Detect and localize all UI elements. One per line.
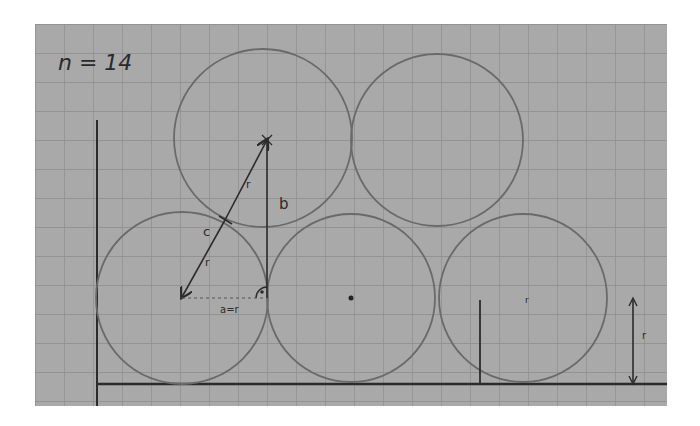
label-r-lower: r: [205, 256, 210, 269]
n-equals-label: n = 14: [58, 50, 132, 75]
graph-paper: [35, 24, 667, 406]
label-b: b: [279, 195, 289, 213]
label-c: c: [203, 224, 210, 239]
label-r-upper: r: [246, 178, 251, 191]
center-dot-middle: [349, 296, 354, 301]
circle-packing-diagram: n = 14 r c r b: [0, 0, 700, 426]
label-r-right-circle: r: [525, 295, 529, 305]
label-a-equals-r: a=r: [220, 304, 240, 315]
